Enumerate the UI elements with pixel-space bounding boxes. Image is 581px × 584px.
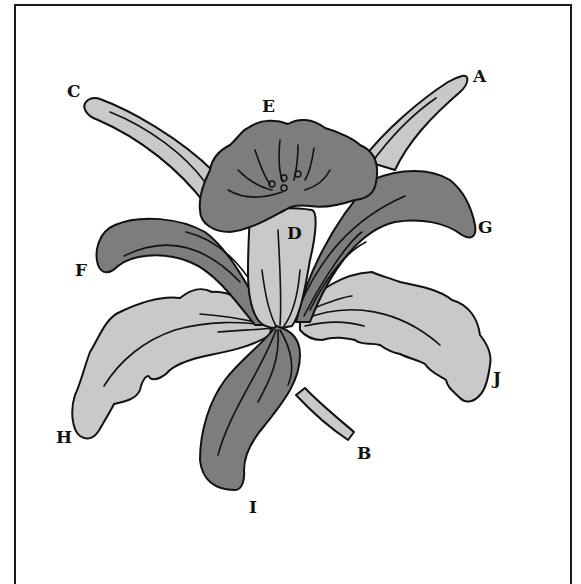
label-i: I xyxy=(249,497,257,517)
part-j-lower-right-petal xyxy=(300,272,491,402)
label-d: D xyxy=(287,223,302,243)
part-b-stem xyxy=(296,388,354,440)
label-j: J xyxy=(491,368,501,388)
label-a: A xyxy=(472,66,487,86)
label-g: G xyxy=(478,217,493,237)
label-b: B xyxy=(357,443,371,463)
part-a-upper-right-sepal xyxy=(362,76,467,170)
part-c-upper-left-sepal xyxy=(84,98,214,205)
label-f: F xyxy=(75,260,87,280)
label-e: E xyxy=(262,96,275,116)
label-h: H xyxy=(56,427,72,447)
label-c: C xyxy=(67,81,81,101)
